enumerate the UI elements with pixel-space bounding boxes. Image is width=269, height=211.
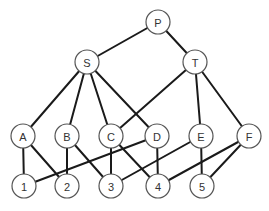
node-B: B	[55, 124, 79, 148]
node-D: D	[145, 124, 169, 148]
node-label: T	[192, 57, 199, 69]
node-T: T	[183, 50, 207, 74]
node-F: F	[237, 124, 261, 148]
node-1: 1	[12, 174, 36, 198]
node-label: C	[107, 131, 115, 143]
node-S: S	[75, 50, 99, 74]
node-C: C	[99, 124, 123, 148]
edge-S-D	[87, 62, 157, 136]
node-label: 5	[199, 181, 205, 193]
node-label: F	[246, 131, 253, 143]
node-P: P	[146, 10, 170, 34]
node-label: 2	[64, 181, 70, 193]
node-label: P	[154, 17, 161, 29]
node-label: 3	[108, 181, 114, 193]
node-label: D	[153, 131, 161, 143]
node-2: 2	[55, 174, 79, 198]
node-3: 3	[99, 174, 123, 198]
node-label: 1	[21, 181, 27, 193]
node-label: S	[83, 57, 90, 69]
node-label: E	[197, 131, 204, 143]
nodes-layer: PSTABCDEF12345	[11, 10, 261, 198]
node-A: A	[11, 124, 35, 148]
graph-diagram: PSTABCDEF12345	[0, 0, 269, 211]
node-E: E	[189, 124, 213, 148]
edges-layer	[23, 22, 249, 186]
node-label: A	[19, 131, 27, 143]
node-5: 5	[190, 174, 214, 198]
node-label: 4	[155, 181, 161, 193]
node-4: 4	[146, 174, 170, 198]
node-label: B	[63, 131, 70, 143]
